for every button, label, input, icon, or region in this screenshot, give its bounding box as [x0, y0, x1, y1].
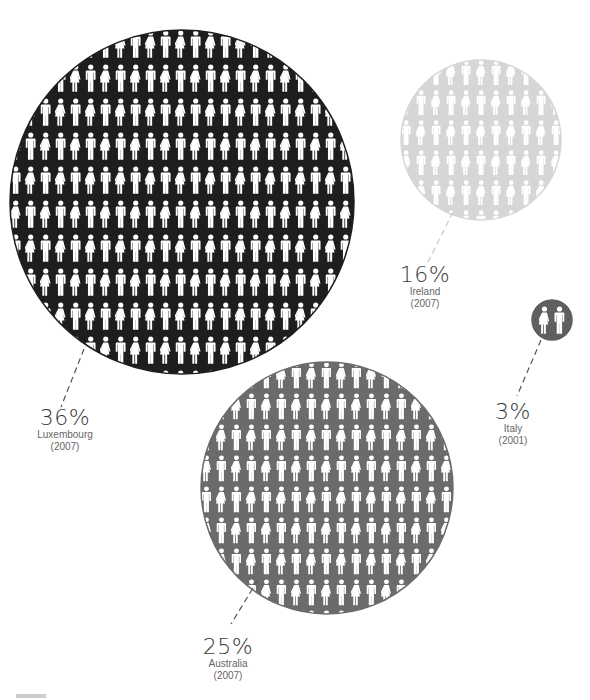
country-name: Australia	[198, 659, 258, 670]
bubble-italy	[517, 300, 572, 396]
infographic: 36% Luxembourg (2007) 16% Ireland (2007)…	[0, 0, 590, 700]
year-value: (2007)	[30, 442, 100, 453]
bubble-chart	[0, 0, 590, 700]
year-value: (2007)	[395, 299, 455, 310]
label-luxembourg: 36% Luxembourg (2007)	[30, 406, 100, 452]
percentage-value: 25%	[198, 635, 258, 658]
leader-line-ireland	[428, 212, 453, 262]
label-italy: 3% Italy (2001)	[488, 400, 538, 446]
leader-line-italy	[517, 340, 541, 396]
cropped-footer-text	[16, 694, 46, 698]
bubble-ireland	[385, 30, 575, 265]
percentage-value: 16%	[395, 263, 455, 286]
percentage-value: 3%	[488, 400, 538, 423]
leader-line-luxembourg	[61, 349, 84, 407]
percentage-value: 36%	[30, 406, 100, 429]
country-name: Ireland	[395, 287, 455, 298]
year-value: (2001)	[488, 436, 538, 447]
label-ireland: 16% Ireland (2007)	[395, 263, 455, 309]
country-name: Luxembourg	[30, 430, 100, 441]
bubble-australia	[185, 331, 466, 667]
label-australia: 25% Australia (2007)	[198, 635, 258, 681]
year-value: (2007)	[198, 671, 258, 682]
country-name: Italy	[488, 424, 538, 435]
